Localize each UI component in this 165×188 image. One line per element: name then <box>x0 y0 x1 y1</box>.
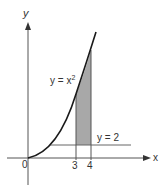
curve-label: y = x2 <box>50 74 75 86</box>
x-axis-arrow-icon <box>143 155 151 161</box>
tick-label-4: 4 <box>87 160 93 171</box>
y-axis-label: y <box>22 7 30 19</box>
origin-label: 0 <box>22 159 28 170</box>
curve-label-base: y = x <box>50 75 71 86</box>
y-axis-arrow-icon <box>25 22 31 30</box>
shaded-area <box>76 50 91 145</box>
curve-label-exponent: 2 <box>71 74 75 81</box>
x-axis-label: x <box>153 152 158 163</box>
diagram: y x 0 3 4 y = x2 y = 2 <box>0 0 165 188</box>
tick-label-3: 3 <box>72 160 78 171</box>
line-label: y = 2 <box>97 132 119 143</box>
